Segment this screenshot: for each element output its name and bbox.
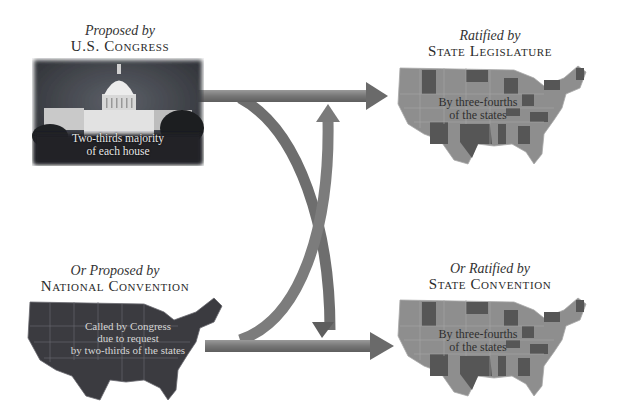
heading-state-legislature: Ratified by State Legislature <box>420 29 560 59</box>
caption-line: Called by Congress <box>58 320 198 332</box>
national-convention-caption: Called by Congress due to request by two… <box>58 320 198 356</box>
caption-line: by two-thirds of the states <box>58 344 198 356</box>
caption-line: of each house <box>32 145 204 158</box>
caption-line: due to request <box>58 332 198 344</box>
us-map-state-legislature: By three-fourths of the states <box>394 64 594 168</box>
arrowhead-up <box>316 104 340 122</box>
arrowhead-right-top <box>366 82 388 110</box>
heading-main-label: National Convention <box>40 279 190 295</box>
us-map-state-convention: By three-fourths of the states <box>394 296 594 400</box>
heading-sub-label: Or Ratified by <box>420 262 560 277</box>
straight-arrow-top-shaft <box>198 90 368 102</box>
heading-sub-label: Ratified by <box>420 29 560 44</box>
heading-main-label: State Convention <box>420 277 560 293</box>
straight-arrow-bottom-shaft <box>205 340 373 352</box>
curved-arrow-national-convention-to-state-legislature <box>240 120 328 340</box>
heading-sub-label: Or Proposed by <box>40 264 190 279</box>
caption-line: of the states <box>418 341 538 354</box>
heading-congress: Proposed by U.S. Congress <box>60 24 180 54</box>
capitol-photo: Two-thirds majority of each house <box>32 58 204 166</box>
caption-line: of the states <box>418 109 538 122</box>
caption-line: Two-thirds majority <box>32 132 204 145</box>
congress-caption: Two-thirds majority of each house <box>32 132 204 157</box>
state-legislature-caption: By three-fourths of the states <box>418 96 538 122</box>
arrowhead-right-bottom <box>370 332 394 360</box>
heading-sub-label: Proposed by <box>60 24 180 39</box>
heading-national-convention: Or Proposed by National Convention <box>40 264 190 294</box>
state-convention-caption: By three-fourths of the states <box>418 328 538 354</box>
heading-state-convention: Or Ratified by State Convention <box>420 262 560 292</box>
us-map-national-convention: Called by Congress due to request by two… <box>24 296 228 404</box>
heading-main-label: State Legislature <box>420 44 560 60</box>
heading-main-label: U.S. Congress <box>60 39 180 55</box>
